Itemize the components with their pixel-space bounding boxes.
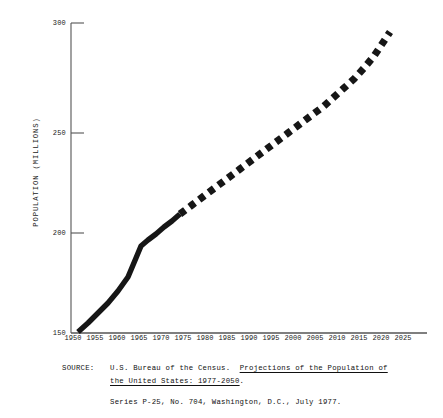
source-label: SOURCE: [62,362,110,375]
population-chart: POPULATION (MILLIONS) 300 250 200 150 19… [0,0,443,352]
y-tick-label-250: 250 [40,129,66,137]
source-line-series: Series P-25, No. 704, Washington, D.C., … [110,396,341,409]
x-tick-label-2025: 2025 [390,334,416,342]
source-title-part2: the United States: 1977-2050 [110,377,240,385]
plot-canvas [0,0,443,352]
chart-page: POPULATION (MILLIONS) 300 250 200 150 19… [0,0,443,418]
historical-series-line [78,214,180,332]
source-title-period: . [240,377,245,385]
projection-series-line [180,32,390,214]
source-title-part1: Projections of the Population of [240,364,388,372]
y-tick-label-300: 300 [40,19,66,27]
source-line-primary: SOURCE:U.S. Bureau of the Census. Projec… [62,362,388,375]
y-tick-label-200: 200 [40,229,66,237]
source-agency: U.S. Bureau of the Census. [110,364,230,372]
source-line-title-cont: the United States: 1977-2050. [110,375,244,388]
